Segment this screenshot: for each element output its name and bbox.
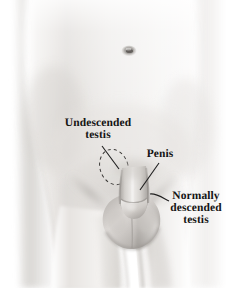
suprapubic-shadow [114, 161, 154, 179]
illustration-artwork [0, 0, 236, 288]
label-undescended-testis: Undescended testis [52, 118, 144, 142]
navel [122, 46, 137, 57]
label-normally-descended-testis-line2: descended [158, 203, 234, 215]
label-normally-descended-testis-line3: testis [158, 215, 234, 227]
label-penis: Penis [140, 149, 180, 161]
anatomical-illustration-figure: Undescended testis Penis Normally descen… [0, 0, 236, 288]
label-undescended-testis-line2: testis [52, 130, 144, 142]
navel-highlight [126, 48, 132, 51]
glans-highlight [126, 203, 136, 211]
label-normally-descended-testis: Normally descended testis [158, 191, 234, 226]
label-penis-line1: Penis [140, 149, 180, 161]
